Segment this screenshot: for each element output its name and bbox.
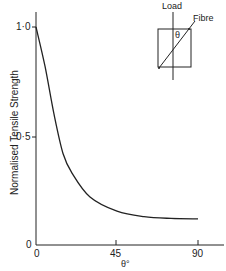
inset-load-label: Load: [162, 1, 182, 11]
strength-curve: [36, 27, 198, 219]
fibre-line: [159, 21, 195, 68]
y-tick-label-0: 0: [26, 239, 32, 250]
x-tick-label-0: 0: [34, 248, 40, 259]
y-axis-label: Normalised Tensile Strength: [9, 70, 20, 195]
x-tick-label-90: 90: [192, 248, 203, 259]
inset-fibre-label: Fibre: [193, 13, 214, 23]
y-tick-label-1: 1·0: [16, 21, 30, 32]
x-axis-label: θ°: [121, 259, 130, 269]
chart-canvas: [0, 0, 226, 271]
inset-angle-label: θ: [175, 30, 180, 40]
fibre-end-dot: [158, 67, 160, 69]
fibre-end-dot: [188, 28, 190, 30]
x-tick-label-45: 45: [110, 248, 121, 259]
